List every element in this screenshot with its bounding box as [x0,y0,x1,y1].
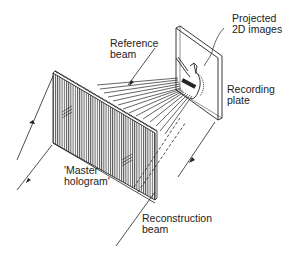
illumination-beams [17,76,53,190]
label-master-hologram: 'Master hologram' [64,165,110,187]
label-recording-plate: Recording plate [227,84,275,106]
projected-images-leader [204,28,224,66]
recording-plate-frame [176,26,222,120]
label-projected-images: Projected 2D images [232,13,282,35]
hologram-diagram: Projected 2D images Reference beam Recor… [0,0,297,260]
label-reference-beam: Reference beam [110,38,158,60]
label-reconstruction-beam: Reconstruction beam [142,213,212,235]
